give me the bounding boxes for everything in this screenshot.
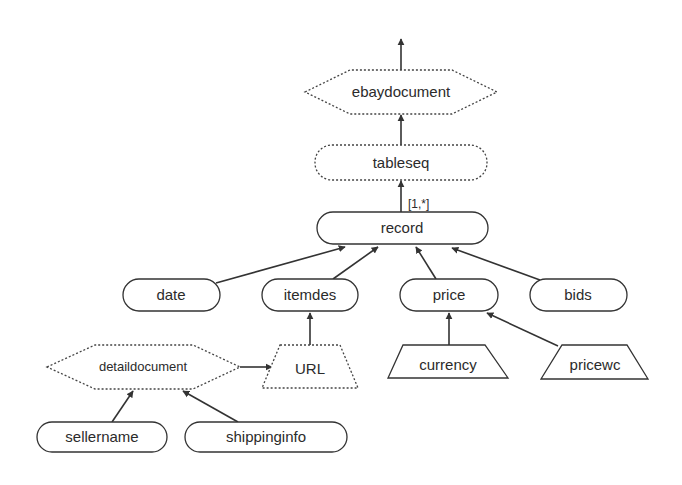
edge-itemdes-record	[333, 247, 378, 279]
edge-sellername-detaildocument	[112, 391, 133, 422]
edge-shippinginfo-detaildocument	[183, 391, 238, 422]
node-label: shippinginfo	[226, 428, 306, 445]
node-bids[interactable]: bids	[530, 279, 627, 311]
node-sellername[interactable]: sellername	[37, 422, 167, 452]
node-currency[interactable]: currency	[388, 345, 508, 378]
node-label: tableseq	[373, 154, 430, 171]
edge-price-record	[416, 247, 436, 279]
node-label: detaildocument	[99, 359, 188, 374]
node-itemdes[interactable]: itemdes	[262, 279, 358, 311]
node-price[interactable]: price	[400, 279, 498, 311]
cardinality-label: [1,*]	[408, 197, 429, 211]
node-tableseq[interactable]: tableseq	[315, 145, 487, 180]
node-label: itemdes	[284, 286, 337, 303]
edge-bids-record	[452, 248, 540, 280]
node-label: bids	[564, 286, 592, 303]
edge-pricewc-price	[487, 313, 558, 346]
node-label: record	[381, 219, 424, 236]
schema-diagram: [1,*] ebaydocument tableseq record date …	[0, 0, 682, 485]
node-ebaydocument[interactable]: ebaydocument	[305, 70, 497, 114]
node-label: ebaydocument	[352, 83, 451, 100]
node-label: URL	[295, 360, 325, 377]
node-label: date	[156, 286, 185, 303]
node-detaildocument[interactable]: detaildocument	[47, 345, 240, 389]
node-url[interactable]: URL	[262, 345, 358, 388]
node-label: pricewc	[570, 356, 621, 373]
node-label: currency	[419, 356, 477, 373]
edge-date-record	[216, 247, 345, 283]
node-pricewc[interactable]: pricewc	[541, 345, 648, 379]
node-date[interactable]: date	[123, 279, 220, 311]
node-record[interactable]: record	[317, 212, 488, 244]
node-shippinginfo[interactable]: shippinginfo	[185, 422, 347, 452]
node-label: price	[433, 286, 466, 303]
node-label: sellername	[65, 428, 138, 445]
